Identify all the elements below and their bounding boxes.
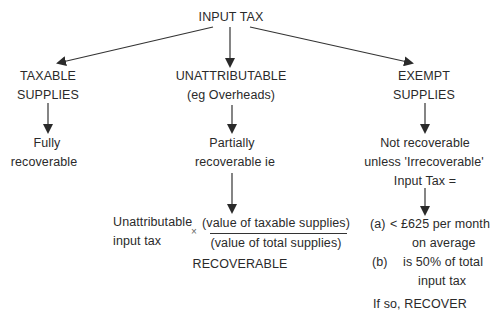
unattributable-title-line2: (eg Overheads) [187,86,275,105]
exempt-outcome-line3: Input Tax = [394,172,456,191]
formula-multiply-operator: × [191,222,197,241]
root-node-input-tax: INPUT TAX [199,8,264,27]
exempt-title-line2: SUPPLIES [393,86,455,105]
taxable-title-line1: TAXABLE [20,67,76,86]
formula-result-recoverable: RECOVERABLE [193,255,288,274]
condition-a-marker: (a) [370,215,386,234]
exempt-result-recover: If so, RECOVER [373,295,467,314]
arrow-root-to-taxable [58,27,213,63]
taxable-outcome-line2: recoverable [11,153,77,172]
unattributable-title-line1: UNATTRIBUTABLE [176,67,287,86]
condition-b-line1: is 50% of total [403,253,483,272]
unattributable-outcome-line2: recoverable ie [195,153,275,172]
unattributable-outcome-line1: Partially [209,134,254,153]
condition-b-marker: (b) [372,253,388,272]
formula-left-line2: input tax [113,232,161,251]
exempt-title-line1: EXEMPT [398,67,450,86]
formula-left-line1: Unattributable [113,213,192,232]
condition-a-line1: < £625 per month [390,215,490,234]
exempt-outcome-line2: unless 'Irrecoverable' [364,153,484,172]
formula-numerator: (value of taxable supplies) [202,214,350,233]
formula-denominator: (value of total supplies) [210,234,341,253]
condition-b-line2: input tax [418,272,466,291]
exempt-outcome-line1: Not recoverable [380,134,470,153]
arrow-root-to-exempt [250,27,412,63]
taxable-outcome-line1: Fully [34,134,61,153]
condition-a-line2: on average [412,234,476,253]
taxable-title-line2: SUPPLIES [17,86,79,105]
input-tax-diagram: INPUT TAX TAXABLE SUPPLIES Fully recover… [0,0,493,318]
